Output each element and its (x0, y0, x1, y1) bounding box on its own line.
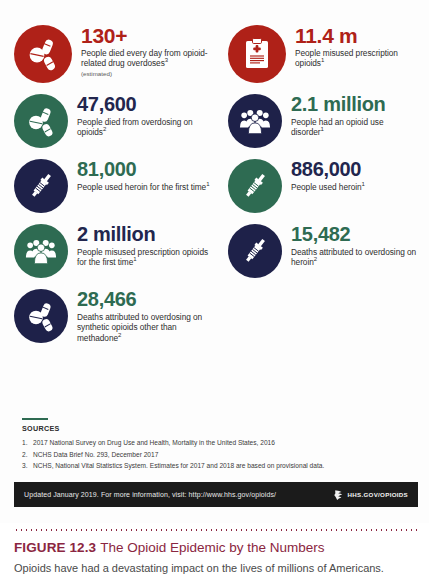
stat-number: 130+ (81, 25, 212, 46)
stat-badge (228, 159, 282, 213)
people-group-icon (25, 236, 57, 266)
stat-number: 11.4 m (295, 25, 418, 46)
sources-section: SOURCES 1. 2017 National Survey on Drug … (22, 418, 412, 472)
footnote-marker: 1 (321, 58, 324, 64)
hhs-eagle-icon (333, 489, 344, 501)
stat-text: 130+ People died every day from opioid-r… (72, 24, 212, 78)
statistics-grid: 130+ People died every day from opioid-r… (14, 24, 418, 353)
stat-number: 28,466 (77, 289, 212, 310)
stat-item-81000: 81,000 People used heroin for the first … (14, 158, 216, 213)
stat-badge (228, 25, 286, 83)
source-number: 1. (22, 437, 33, 449)
stat-description: People died every day from opioid-relate… (81, 48, 212, 69)
stat-item-2-1-million: 2.1 million People had an opioid use dis… (216, 93, 418, 148)
stat-text: 11.4 m People misused prescription opioi… (286, 24, 418, 69)
source-text: NCHS, National Vital Statistics System. … (33, 460, 324, 472)
stat-row: 47,600 People died from overdosing on op… (14, 93, 418, 148)
stat-item-11-4m: 11.4 m People misused prescription opioi… (216, 24, 418, 83)
pills-icon (25, 105, 58, 138)
pills-icon (25, 300, 58, 333)
stat-item-15482: 15,482 Deaths attributed to overdosing o… (216, 223, 418, 278)
stat-description: People had an opioid use disorder1 (291, 117, 418, 138)
infographic-panel: 130+ People died every day from opioid-r… (0, 0, 429, 523)
hhs-logo-text: HHS.GOV/OPIOIDS (347, 491, 408, 498)
figure-title: The Opioid Epidemic by the Numbers (100, 540, 324, 555)
syringe-icon (25, 170, 57, 202)
stat-number: 2 million (77, 224, 212, 245)
figure-caption: FIGURE 12.3The Opioid Epidemic by the Nu… (14, 539, 424, 557)
stat-badge (14, 25, 72, 83)
stat-row: 28,466 Deaths attributed to overdosing o… (14, 288, 418, 343)
stat-badge (14, 94, 68, 148)
stat-badge (14, 224, 68, 278)
stat-item-28466: 28,466 Deaths attributed to overdosing o… (14, 288, 216, 343)
footnote-marker: 1 (362, 181, 365, 187)
source-number: 3. (22, 460, 33, 472)
stat-number: 15,482 (291, 224, 418, 245)
source-number: 2. (22, 449, 33, 461)
stat-text: 886,000 People used heroin1 (282, 158, 418, 192)
stat-badge (14, 159, 68, 213)
hhs-logo: HHS.GOV/OPIOIDS (333, 489, 408, 501)
stat-number: 47,600 (77, 94, 212, 115)
stat-description: Deaths attributed to overdosing on heroi… (291, 247, 418, 268)
pills-icon (25, 36, 61, 72)
stat-item-130-plus: 130+ People died every day from opioid-r… (14, 24, 216, 83)
stat-description: People used heroin for the first time1 (77, 182, 212, 192)
source-text: 2017 National Survey on Drug Use and Hea… (33, 437, 275, 449)
prescription-clipboard-icon (241, 37, 273, 71)
footnote-marker: 1 (206, 181, 209, 187)
stat-badge (14, 289, 68, 343)
footnote-marker: 3 (165, 58, 168, 64)
footer-update-text[interactable]: Updated January 2019. For more informati… (24, 491, 276, 498)
figure-subtitle: Opioids have had a devastating impact on… (14, 561, 424, 576)
source-list-item: 1. 2017 National Survey on Drug Use and … (22, 437, 412, 449)
stat-number: 886,000 (291, 159, 418, 180)
stat-text: 81,000 People used heroin for the first … (68, 158, 212, 192)
caption-divider (14, 529, 418, 531)
figure-caption-area: FIGURE 12.3The Opioid Epidemic by the Nu… (0, 523, 429, 588)
stat-row: 81,000 People used heroin for the first … (14, 158, 418, 213)
sources-rule (22, 418, 48, 420)
stat-number: 81,000 (77, 159, 212, 180)
sources-heading: SOURCES (22, 424, 412, 433)
stat-description: People died from overdosing on opioids2 (77, 117, 212, 138)
footnote-marker: 1 (321, 127, 324, 133)
stat-row: 2 million People misused prescription op… (14, 223, 418, 278)
stat-description: People misused prescription opioids for … (77, 247, 212, 268)
stat-item-2-million: 2 million People misused prescription op… (14, 223, 216, 278)
stat-row: 130+ People died every day from opioid-r… (14, 24, 418, 83)
stat-badge (228, 224, 282, 278)
stat-description: People misused prescription opioids1 (295, 48, 418, 69)
source-list-item: 3. NCHS, National Vital Statistics Syste… (22, 460, 412, 472)
stat-description: People used heroin1 (291, 182, 418, 192)
infographic-page: 130+ People died every day from opioid-r… (0, 0, 429, 588)
syringe-icon (239, 235, 271, 267)
footnote-marker: 2 (103, 127, 106, 133)
footer-bar: Updated January 2019. For more informati… (14, 482, 418, 507)
stat-text: 47,600 People died from overdosing on op… (68, 93, 212, 138)
stat-number: 2.1 million (291, 94, 418, 115)
syringe-icon (239, 170, 271, 202)
stat-text: 2 million People misused prescription op… (68, 223, 212, 268)
source-list-item: 2. NCHS Data Brief No. 293, December 201… (22, 449, 412, 461)
stat-text: 15,482 Deaths attributed to overdosing o… (282, 223, 418, 268)
stat-note: (estimated) (81, 70, 212, 78)
stat-description: Deaths attributed to overdosing on synth… (77, 312, 212, 343)
stat-item-886000: 886,000 People used heroin1 (216, 158, 418, 213)
footnote-marker: 2 (314, 257, 317, 263)
people-group-icon (239, 106, 271, 136)
figure-label: FIGURE 12.3 (14, 540, 96, 555)
stat-text: 28,466 Deaths attributed to overdosing o… (68, 288, 212, 343)
stat-item-47600: 47,600 People died from overdosing on op… (14, 93, 216, 148)
footnote-marker: 1 (133, 257, 136, 263)
stat-text: 2.1 million People had an opioid use dis… (282, 93, 418, 138)
footnote-marker: 2 (118, 332, 121, 338)
stat-badge (228, 94, 282, 148)
source-text: NCHS Data Brief No. 293, December 2017 (33, 449, 158, 461)
